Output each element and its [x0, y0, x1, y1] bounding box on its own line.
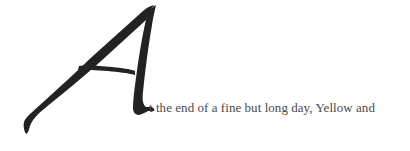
paragraph-first-line: t the end of a fine but long day, Yellow… — [149, 100, 375, 116]
drop-cap-letter-a — [0, 0, 170, 151]
